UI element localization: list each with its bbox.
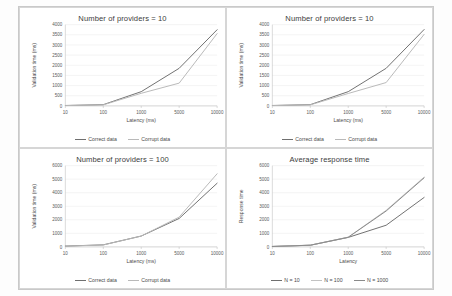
legend-line-swatch xyxy=(271,280,282,281)
svg-text:2500: 2500 xyxy=(259,53,270,58)
svg-text:2000: 2000 xyxy=(52,217,63,222)
chart-legend: N = 10N = 100N = 1000 xyxy=(227,277,432,283)
svg-text:4000: 4000 xyxy=(259,190,270,195)
svg-text:Validation time (ms): Validation time (ms) xyxy=(238,43,244,88)
plot-area: 0500100015002000250030003500400010100100… xyxy=(227,8,432,147)
svg-text:1000: 1000 xyxy=(343,251,354,256)
svg-text:100: 100 xyxy=(100,251,108,256)
legend-item[interactable]: Corrupt data xyxy=(335,136,377,142)
svg-text:3000: 3000 xyxy=(259,204,270,209)
plot-area: 0100020003000400050006000101001000500010… xyxy=(20,149,225,288)
svg-text:100: 100 xyxy=(307,110,315,115)
legend-item[interactable]: Correct data xyxy=(75,277,117,283)
svg-text:10: 10 xyxy=(63,110,69,115)
legend-line-swatch xyxy=(354,280,365,281)
svg-text:10: 10 xyxy=(270,251,276,256)
svg-text:3000: 3000 xyxy=(52,204,63,209)
svg-text:Response time: Response time xyxy=(238,189,244,223)
legend-label: Corrupt data xyxy=(141,277,170,283)
svg-text:500: 500 xyxy=(55,93,63,98)
chart-legend: Correct dataCorrupt data xyxy=(20,277,225,283)
svg-text:100: 100 xyxy=(307,251,315,256)
svg-text:10000: 10000 xyxy=(418,110,431,115)
svg-text:1000: 1000 xyxy=(52,83,63,88)
svg-text:5000: 5000 xyxy=(52,177,63,182)
svg-text:0: 0 xyxy=(267,245,270,250)
svg-text:Latency (ms): Latency (ms) xyxy=(126,117,156,123)
svg-text:5000: 5000 xyxy=(174,110,185,115)
svg-text:500: 500 xyxy=(262,93,270,98)
plot-area: 0100020003000400050006000101001000500010… xyxy=(227,149,432,288)
chart-svg: 0500100015002000250030003500400010100100… xyxy=(227,8,432,147)
legend-line-swatch xyxy=(128,139,139,140)
svg-text:4000: 4000 xyxy=(52,22,63,27)
svg-text:10000: 10000 xyxy=(418,251,431,256)
chart-grid: Number of providers = 10 050010001500200… xyxy=(18,6,434,290)
legend-line-swatch xyxy=(335,139,346,140)
svg-text:Validation time (ms): Validation time (ms) xyxy=(31,43,37,88)
legend-item[interactable]: N = 100 xyxy=(311,277,343,283)
svg-text:5000: 5000 xyxy=(381,110,392,115)
svg-text:1000: 1000 xyxy=(136,251,147,256)
legend-label: N = 100 xyxy=(324,277,342,283)
legend-line-swatch xyxy=(282,139,293,140)
chart-legend: Correct dataCorrupt data xyxy=(20,136,225,142)
svg-text:1000: 1000 xyxy=(52,231,63,236)
svg-text:6000: 6000 xyxy=(259,163,270,168)
legend-item[interactable]: Correct data xyxy=(282,136,324,142)
legend-label: Corrupt data xyxy=(141,136,170,142)
svg-text:10000: 10000 xyxy=(211,110,224,115)
legend-label: N = 10 xyxy=(284,277,299,283)
legend-line-swatch xyxy=(75,280,86,281)
chart-legend: Correct dataCorrupt data xyxy=(227,136,432,142)
chart-svg: 0100020003000400050006000101001000500010… xyxy=(20,149,225,288)
svg-text:100: 100 xyxy=(100,110,108,115)
chart-panel-providers-10-a: Number of providers = 10 050010001500200… xyxy=(19,7,226,148)
svg-text:10000: 10000 xyxy=(211,251,224,256)
plot-area: 0500100015002000250030003500400010100100… xyxy=(20,8,225,147)
svg-text:2000: 2000 xyxy=(52,63,63,68)
svg-text:4000: 4000 xyxy=(52,190,63,195)
legend-label: N = 1000 xyxy=(367,277,388,283)
svg-text:3000: 3000 xyxy=(259,43,270,48)
svg-text:Latency: Latency xyxy=(339,258,357,264)
legend-label: Correct data xyxy=(88,136,117,142)
svg-text:2000: 2000 xyxy=(259,63,270,68)
svg-text:4000: 4000 xyxy=(259,22,270,27)
legend-item[interactable]: Correct data xyxy=(75,136,117,142)
svg-text:10: 10 xyxy=(270,110,276,115)
chart-svg: 0500100015002000250030003500400010100100… xyxy=(20,8,225,147)
svg-text:3000: 3000 xyxy=(52,43,63,48)
svg-text:3500: 3500 xyxy=(259,32,270,37)
svg-text:1000: 1000 xyxy=(343,110,354,115)
svg-text:5000: 5000 xyxy=(259,177,270,182)
legend-label: Corrupt data xyxy=(348,136,377,142)
svg-text:Validation time (ms): Validation time (ms) xyxy=(31,184,37,229)
legend-label: Correct data xyxy=(88,277,117,283)
chart-panel-average-response-time: Average response time 010002000300040005… xyxy=(226,148,433,289)
svg-text:2500: 2500 xyxy=(52,53,63,58)
svg-text:0: 0 xyxy=(60,104,63,109)
svg-text:5000: 5000 xyxy=(381,251,392,256)
svg-text:Latency (ms): Latency (ms) xyxy=(333,117,363,123)
legend-line-swatch xyxy=(128,280,139,281)
chart-svg: 0100020003000400050006000101001000500010… xyxy=(227,149,432,288)
chart-panel-providers-100: Number of providers = 100 01000200030004… xyxy=(19,148,226,289)
legend-line-swatch xyxy=(311,280,322,281)
svg-text:1000: 1000 xyxy=(259,231,270,236)
svg-text:0: 0 xyxy=(267,104,270,109)
svg-text:0: 0 xyxy=(60,245,63,250)
svg-text:5000: 5000 xyxy=(174,251,185,256)
legend-label: Correct data xyxy=(295,136,324,142)
svg-text:10: 10 xyxy=(63,251,69,256)
legend-item[interactable]: N = 10 xyxy=(271,277,300,283)
figure-page: Number of providers = 10 050010001500200… xyxy=(0,0,452,296)
chart-panel-providers-10-b: Number of providers = 10 050010001500200… xyxy=(226,7,433,148)
legend-line-swatch xyxy=(75,139,86,140)
svg-text:3500: 3500 xyxy=(52,32,63,37)
legend-item[interactable]: N = 1000 xyxy=(354,277,389,283)
legend-item[interactable]: Corrupt data xyxy=(128,277,170,283)
svg-text:1500: 1500 xyxy=(52,73,63,78)
svg-text:1500: 1500 xyxy=(259,73,270,78)
legend-item[interactable]: Corrupt data xyxy=(128,136,170,142)
